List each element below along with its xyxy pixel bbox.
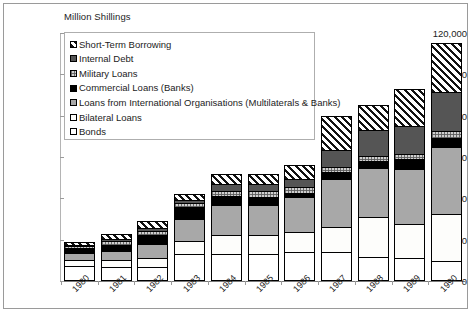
x-axis-tick-mark [392,281,393,285]
bar-segment-intlorg [211,205,242,235]
bar-segment-intlorg [431,147,462,214]
bar-segment-bilateral [101,260,132,267]
x-axis-tick-mark [245,281,246,285]
hatch-diagonal-swatch [70,41,77,48]
bar-1983[interactable] [174,194,205,281]
bar-segment-bilateral [431,214,462,261]
bar-segment-internal [321,150,352,167]
bar-segment-commercial [358,161,389,168]
bar-segment-shortterm [284,165,315,178]
bar-1988[interactable] [358,105,389,281]
bar-segment-commercial [394,159,425,169]
x-axis-tick-mark [465,281,466,285]
legend-item-commercial[interactable]: Commercial Loans (Banks) [70,81,314,96]
axis-title: Million Shillings [64,11,131,22]
legend-item-intlorg[interactable]: Loans from International Organisations (… [70,95,314,110]
bar-segment-shortterm [358,105,389,130]
legend-item-label: Internal Debt [79,54,133,64]
bar-1980[interactable] [64,242,95,281]
bar-segment-internal [248,184,279,191]
bar-segment-intlorg [64,253,95,260]
bar-segment-bilateral [137,258,168,266]
legend-item-label: Bonds [79,127,106,137]
chart-frame: Million Shillings 120,000100,00080,00060… [3,3,468,309]
bar-1986[interactable] [284,165,315,281]
bar-1982[interactable] [137,221,168,281]
legend-item-shortterm[interactable]: Short-Term Borrowing [70,37,314,52]
bar-segment-commercial [431,138,462,147]
bar-1990[interactable] [431,43,462,281]
bar-segment-bilateral [174,241,205,254]
x-axis-tick-mark [281,281,282,285]
bar-1984[interactable] [211,174,242,281]
bar-segment-intlorg [174,219,205,241]
bar-segment-intlorg [321,179,352,228]
dotted-swatch [70,114,77,121]
medium-gray-swatch [70,99,77,106]
bar-segment-bilateral [284,232,315,252]
legend-item-label: Commercial Loans (Banks) [79,83,194,93]
bar-segment-internal [394,126,425,154]
legend-item-label: Loans from International Organisations (… [79,98,340,108]
bar-segment-internal [431,92,462,131]
legend-item-internal[interactable]: Internal Debt [70,52,314,67]
x-axis-tick-mark [171,281,172,285]
chart-legend: Short-Term BorrowingInternal DebtMilitar… [64,32,315,140]
black-swatch [70,85,77,92]
bar-segment-commercial [321,172,352,179]
bar-segment-shortterm [137,221,168,228]
dark-gray-swatch [70,55,77,62]
x-axis-tick-mark [208,281,209,285]
x-axis-tick-mark [98,281,99,285]
x-axis-tick-mark [134,281,135,285]
bar-segment-commercial [137,235,168,244]
bar-segment-internal [284,179,315,188]
x-axis-tick-mark [428,281,429,285]
bar-segment-bilateral [321,227,352,252]
legend-item-bilateral[interactable]: Bilateral Loans [70,110,314,125]
bar-segment-commercial [248,197,279,205]
legend-item-label: Military Loans [79,69,138,79]
bar-1985[interactable] [248,174,279,281]
legend-item-label: Bilateral Loans [79,113,142,123]
bar-1987[interactable] [321,116,352,281]
bar-segment-commercial [174,207,205,219]
bar-segment-intlorg [248,205,279,235]
legend-item-label: Short-Term Borrowing [79,40,171,50]
bar-segment-shortterm [394,89,425,126]
bar-segment-military [431,131,462,138]
bar-segment-shortterm [431,43,462,92]
checkered-swatch [70,70,77,77]
bar-segment-intlorg [284,197,315,232]
bar-segment-bilateral [394,224,425,258]
legend-item-military[interactable]: Military Loans [70,66,314,81]
bar-segment-bilateral [211,235,242,254]
white-swatch [70,128,77,135]
bar-segment-intlorg [101,251,132,260]
bar-segment-shortterm [321,116,352,151]
bar-segment-internal [358,130,389,156]
bar-segment-shortterm [248,174,279,185]
bar-segment-commercial [211,196,242,205]
bar-segment-bilateral [248,235,279,254]
bar-1989[interactable] [394,89,425,281]
bar-segment-intlorg [394,169,425,224]
bar-segment-internal [211,184,242,191]
x-axis-tick-mark [318,281,319,285]
bar-segment-shortterm [211,174,242,184]
bar-segment-intlorg [137,244,168,258]
legend-item-bonds[interactable]: Bonds [70,125,314,140]
x-axis-tick-mark [61,281,62,285]
bar-segment-intlorg [358,168,389,218]
bar-segment-bilateral [358,217,389,256]
x-axis-tick-mark [355,281,356,285]
bar-1981[interactable] [101,234,132,281]
